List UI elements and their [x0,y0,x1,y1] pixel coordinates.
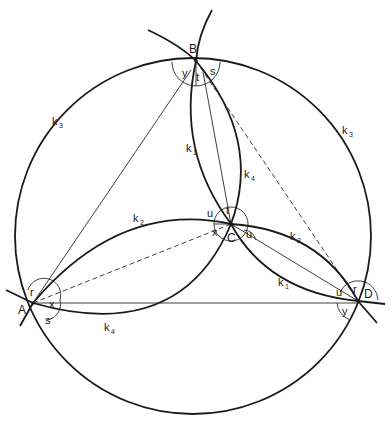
geometry-figure: B C A D y t s u t x u r x s u r y k 3 k … [0,0,392,426]
svg-text:4: 4 [251,175,255,182]
arc-ext-a-left [6,290,33,303]
angle-label-a-s: s [45,314,51,326]
svg-text:k: k [244,168,250,180]
label-k1-upper: k 1 [186,142,197,156]
angle-label-b-s: s [210,65,216,77]
label-k2-right: k 2 [290,230,301,244]
svg-text:k: k [52,115,58,127]
angle-label-c-u-right: u [246,228,252,240]
circle-k3 [15,58,371,414]
label-point-c: C [227,231,236,245]
label-point-a: A [18,303,26,317]
arc-k2-ac [33,219,231,303]
angle-label-c-t: t [226,204,229,216]
svg-text:k: k [290,230,296,242]
arc-k4-ac [33,224,231,314]
label-k3-right: k 3 [342,124,353,138]
dashed-line-ac [33,224,231,303]
label-point-d: D [364,287,373,301]
svg-text:3: 3 [59,122,63,129]
svg-text:4: 4 [111,328,115,335]
label-k4-lower: k 4 [104,321,115,335]
svg-text:k: k [104,321,110,333]
angle-label-c-x: x [212,226,218,238]
line-ab [33,70,191,303]
angle-label-a-x: x [49,298,55,310]
point-c [229,222,233,226]
svg-text:k: k [186,142,192,154]
label-k2-left: k 2 [133,212,144,226]
point-d [356,299,360,303]
arc-through-b-top [196,10,212,61]
svg-text:1: 1 [193,149,197,156]
angle-label-a-r: r [30,286,34,298]
angle-label-b-y: y [182,67,188,79]
angle-label-b-t: t [196,71,199,83]
svg-text:k: k [278,276,284,288]
angle-label-c-u-top: u [207,207,213,219]
arc-k1-bc [191,61,231,224]
svg-text:2: 2 [140,219,144,226]
label-point-b: B [189,42,197,56]
label-k4-upper: k 4 [244,168,255,182]
svg-text:k: k [342,124,348,136]
angle-label-d-y: y [342,305,348,317]
angle-label-d-u: u [336,286,342,298]
svg-text:1: 1 [285,283,289,290]
svg-text:2: 2 [297,237,301,244]
svg-text:3: 3 [349,131,353,138]
angle-label-d-r: r [353,283,357,295]
construction-diagram: B C A D y t s u t x u r x s u r y k 3 k … [0,0,392,426]
dashed-line-bd [196,61,358,301]
arc-ext-d-bottom [358,301,377,323]
point-a [31,301,35,305]
arc-ext-d-right [358,301,385,304]
point-b [194,59,198,63]
svg-text:k: k [133,212,139,224]
